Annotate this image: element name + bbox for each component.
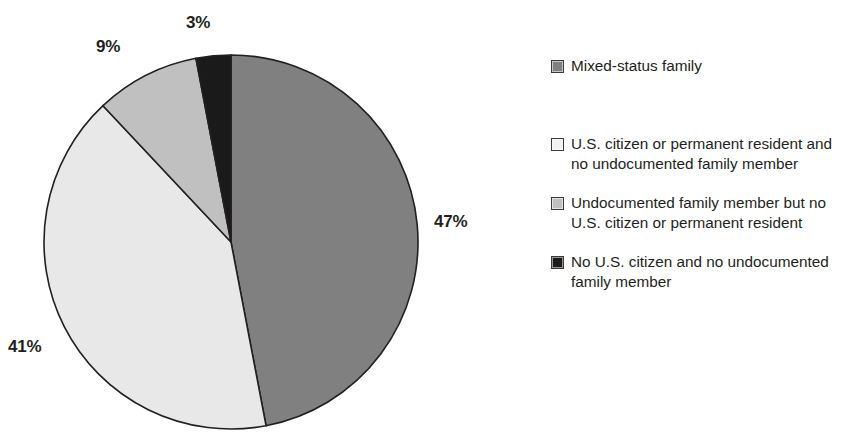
pie-chart-area: 47% 41% 9% 3% xyxy=(0,0,500,437)
legend-item-label: Undocumented family member but no U.S. c… xyxy=(571,193,851,234)
legend-swatch-icon xyxy=(551,197,564,210)
chart-legend: Mixed-status family U.S. citizen or perm… xyxy=(551,56,851,293)
legend-item-no-citizen-no-undocumented: No U.S. citizen and no undocumented fami… xyxy=(551,252,851,293)
legend-item-label: U.S. citizen or permanent resident and n… xyxy=(571,134,851,175)
pie-slice-label-1: 41% xyxy=(8,338,41,355)
legend-item-mixed-status-family: Mixed-status family xyxy=(551,56,851,77)
legend-item-undocumented-no-citizen: Undocumented family member but no U.S. c… xyxy=(551,193,851,234)
legend-item-label: No U.S. citizen and no undocumented fami… xyxy=(571,252,851,293)
legend-swatch-icon xyxy=(551,138,564,151)
legend-swatch-icon xyxy=(551,256,564,269)
pie-chart-figure: 47% 41% 9% 3% Mixed-status family U.S. c… xyxy=(0,0,861,437)
legend-swatch-icon xyxy=(551,60,564,73)
legend-item-label: Mixed-status family xyxy=(571,56,702,77)
pie-slice-label-2: 9% xyxy=(96,38,120,55)
pie-slice-label-0: 47% xyxy=(434,213,467,230)
pie-slice-0 xyxy=(231,55,418,426)
pie-chart-graphic xyxy=(0,0,500,437)
legend-item-citizen-no-undocumented: U.S. citizen or permanent resident and n… xyxy=(551,134,851,175)
pie-slice-label-3: 3% xyxy=(186,14,210,31)
